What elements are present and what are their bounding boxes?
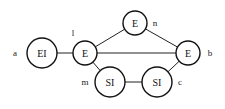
node-E_l: E bbox=[73, 41, 97, 65]
edge-E_n-E_b bbox=[145, 29, 177, 47]
node-E_n: E bbox=[123, 11, 147, 35]
node-label-a: a bbox=[13, 48, 17, 58]
node-SI_m: SI bbox=[95, 67, 125, 97]
graph-diagram: EIEEESISI alnbmc bbox=[0, 0, 225, 109]
nodes-group: EIEEESISI bbox=[27, 11, 200, 97]
edge-E_l-E_n bbox=[95, 29, 124, 47]
node-text: SI bbox=[153, 77, 162, 88]
node-text: SI bbox=[106, 77, 115, 88]
node-text: E bbox=[82, 48, 88, 59]
node-text: EI bbox=[37, 48, 46, 59]
node-label-m: m bbox=[81, 77, 88, 87]
node-label-l: l bbox=[72, 28, 75, 38]
node-label-b: b bbox=[208, 48, 213, 58]
node-text: E bbox=[132, 18, 138, 29]
node-SI_c: SI bbox=[142, 67, 172, 97]
node-label-n: n bbox=[153, 18, 158, 28]
edge-SI_c-E_b bbox=[168, 61, 179, 72]
node-E_b: E bbox=[176, 41, 200, 65]
node-text: E bbox=[185, 48, 191, 59]
node-label-c: c bbox=[178, 77, 182, 87]
edge-E_l-SI_m bbox=[93, 62, 100, 71]
node-EI: EI bbox=[27, 38, 57, 68]
